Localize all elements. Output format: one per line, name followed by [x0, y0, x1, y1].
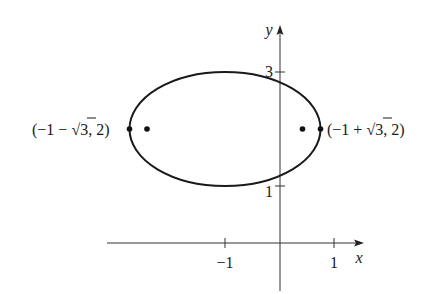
left-vertex-open: (−1 −	[32, 121, 71, 139]
focus-left-point	[144, 126, 150, 132]
left-vertex-label: (−1 − √3, 2)	[32, 118, 109, 139]
focus-right-point	[300, 126, 306, 132]
right-vertex-label: (−1 + √3, 2)	[327, 118, 404, 139]
left-vertex-radicand: 3	[80, 121, 88, 138]
x-axis-label: x	[354, 249, 362, 266]
x-tick-label-neg1: −1	[216, 254, 233, 271]
x-tick-label-1: 1	[330, 254, 338, 271]
ellipse-plot: −1 1 x 3 1 y (−1 − √3, 2) (−1 + √3, 2)	[0, 0, 438, 294]
ellipse-curve	[130, 72, 321, 186]
right-vertex-close: , 2)	[383, 121, 404, 139]
right-vertex-radicand: 3	[375, 121, 383, 138]
vertex-right-point	[318, 126, 324, 132]
svg-text:(−1 − √3, 2): (−1 − √3, 2)	[32, 121, 109, 139]
y-tick-label-1: 1	[265, 183, 273, 200]
left-vertex-close: , 2)	[88, 121, 109, 139]
y-axis: 3 1 y	[263, 21, 285, 291]
vertex-left-point	[127, 126, 133, 132]
right-vertex-sqrt-icon: √	[366, 121, 375, 138]
right-vertex-open: (−1 +	[327, 121, 366, 139]
svg-text:(−1 + √3, 2): (−1 + √3, 2)	[327, 121, 404, 139]
y-axis-label: y	[263, 21, 273, 39]
left-vertex-sqrt-icon: √	[71, 121, 80, 138]
x-axis: −1 1 x	[107, 238, 364, 271]
